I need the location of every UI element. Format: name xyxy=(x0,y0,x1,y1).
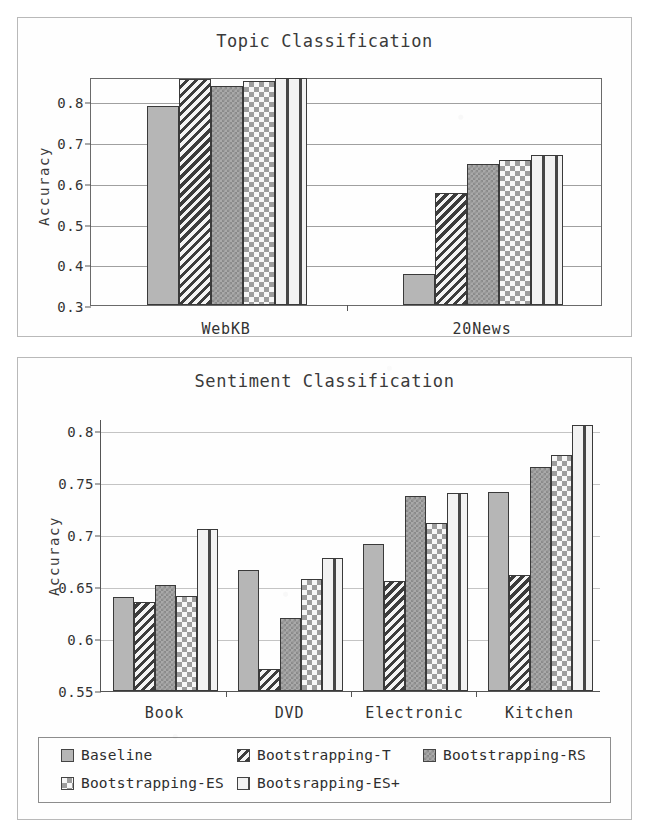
y-tick-label: 0.6 xyxy=(57,177,84,193)
bar-electronic-bootstrapping-rs xyxy=(405,496,426,691)
bar-book-baseline xyxy=(113,597,134,691)
y-tick-mark xyxy=(95,692,101,693)
legend-label: Bootstrapping-RS xyxy=(443,747,586,763)
bar-20news-bootstrapping-rs xyxy=(467,164,499,305)
legend-row: BaselineBootstrapping-TBootstrapping-RS xyxy=(39,742,610,768)
gridline xyxy=(91,103,601,104)
y-tick-mark xyxy=(85,225,91,226)
y-tick-label: 0.5 xyxy=(57,218,84,234)
y-tick-label: 0.8 xyxy=(67,424,94,440)
gridline xyxy=(101,484,600,485)
y-tick-mark xyxy=(95,484,101,485)
bar-webkb-bootstrapping-rs xyxy=(211,86,243,305)
gridline xyxy=(101,536,600,537)
legend-item-bootstrapping-t[interactable]: Bootstrapping-T xyxy=(237,747,391,763)
bar-kitchen-baseline xyxy=(488,492,509,691)
bar-20news-bootstrapping-es xyxy=(499,160,531,305)
x-axis-label-20news: 20News xyxy=(453,320,512,338)
legend-swatch-solid-gray xyxy=(61,749,74,762)
bar-dvd-baseline xyxy=(238,570,259,691)
x-axis-label-electronic: Electronic xyxy=(365,704,463,722)
bar-book-bootstrapping-rs xyxy=(155,585,176,691)
bar-dvd-bootsrapping-es+ xyxy=(322,558,343,691)
y-tick-label: 0.3 xyxy=(57,299,84,315)
bar-kitchen-bootstrapping-es xyxy=(551,455,572,691)
legend-item-bootsrapping-es+[interactable]: Bootsrapping-ES+ xyxy=(237,775,400,791)
y-tick-mark xyxy=(95,588,101,589)
y-tick-mark xyxy=(95,640,101,641)
y-tick-mark xyxy=(95,432,101,433)
y-tick-label: 0.55 xyxy=(58,684,94,700)
x-axis-label-kitchen: Kitchen xyxy=(505,704,574,722)
chart-title-topic: Topic Classification xyxy=(18,31,631,51)
bar-webkb-bootstrapping-es xyxy=(243,81,275,305)
x-tick-mark xyxy=(351,691,352,697)
bar-20news-bootsrapping-es+ xyxy=(531,155,563,305)
y-tick-label: 0.4 xyxy=(57,258,84,274)
y-tick-mark xyxy=(95,536,101,537)
y-tick-mark xyxy=(85,144,91,145)
chart-legend: BaselineBootstrapping-TBootstrapping-RS … xyxy=(38,737,611,803)
y-tick-label: 0.6 xyxy=(67,632,94,648)
x-axis-label-webkb: WebKB xyxy=(201,320,250,338)
bar-kitchen-bootstrapping-rs xyxy=(530,467,551,691)
legend-label: Bootstrapping-ES xyxy=(81,775,224,791)
bar-webkb-bootsrapping-es+ xyxy=(275,78,307,305)
bar-book-bootstrapping-es xyxy=(176,596,197,692)
legend-swatch-diagonal-stripe xyxy=(237,749,250,762)
legend-swatch-dark-dash xyxy=(237,777,250,790)
y-tick-mark xyxy=(85,307,91,308)
bar-electronic-baseline xyxy=(363,544,384,691)
y-tick-label: 0.75 xyxy=(58,476,94,492)
y-tick-label: 0.65 xyxy=(58,580,94,596)
gridline xyxy=(101,432,600,433)
y-tick-label: 0.7 xyxy=(57,136,84,152)
bar-book-bootstrapping-t xyxy=(134,602,155,691)
bar-webkb-bootstrapping-t xyxy=(179,79,211,305)
legend-swatch-fine-checker xyxy=(423,749,436,762)
bar-dvd-bootstrapping-t xyxy=(259,669,280,691)
bar-electronic-bootsrapping-es+ xyxy=(447,493,468,691)
y-tick-label: 0.8 xyxy=(57,95,84,111)
x-axis-label-dvd: DVD xyxy=(275,704,305,722)
y-tick-mark xyxy=(85,266,91,267)
bar-kitchen-bootstrapping-t xyxy=(509,575,530,691)
legend-item-bootstrapping-es[interactable]: Bootstrapping-ES xyxy=(61,775,224,791)
chart-title-sentiment: Sentiment Classification xyxy=(18,371,631,391)
y-tick-mark xyxy=(85,184,91,185)
x-tick-mark xyxy=(347,305,348,311)
bar-kitchen-bootsrapping-es+ xyxy=(572,425,593,691)
legend-item-baseline[interactable]: Baseline xyxy=(61,747,152,763)
bar-20news-bootstrapping-t xyxy=(435,193,467,305)
legend-row: Bootstrapping-ESBootsrapping-ES+ xyxy=(39,770,610,796)
bar-electronic-bootstrapping-t xyxy=(384,581,405,691)
legend-label: Bootsrapping-ES+ xyxy=(257,775,400,791)
legend-item-bootstrapping-rs[interactable]: Bootstrapping-RS xyxy=(423,747,586,763)
y-tick-mark xyxy=(85,103,91,104)
plot-area-sentiment: 0.550.60.650.70.750.8 xyxy=(100,420,600,692)
bar-dvd-bootstrapping-rs xyxy=(280,618,301,691)
topic-classification-panel: Topic Classification Accuracy 0.30.40.50… xyxy=(17,17,632,337)
x-axis-label-book: Book xyxy=(145,704,184,722)
x-tick-mark xyxy=(226,691,227,697)
plot-area-topic: 0.30.40.50.60.70.8 xyxy=(90,78,602,306)
legend-label: Baseline xyxy=(81,747,152,763)
legend-label: Bootstrapping-T xyxy=(257,747,391,763)
x-tick-mark xyxy=(476,691,477,697)
bar-20news-baseline xyxy=(403,274,435,305)
bar-book-bootsrapping-es+ xyxy=(197,529,218,691)
y-tick-label: 0.7 xyxy=(67,528,94,544)
bar-dvd-bootstrapping-es xyxy=(301,579,322,691)
bar-electronic-bootstrapping-es xyxy=(426,523,447,691)
legend-swatch-light-checker xyxy=(61,777,74,790)
bar-webkb-baseline xyxy=(147,106,179,306)
y-axis-label-topic: Accuracy xyxy=(36,146,52,226)
